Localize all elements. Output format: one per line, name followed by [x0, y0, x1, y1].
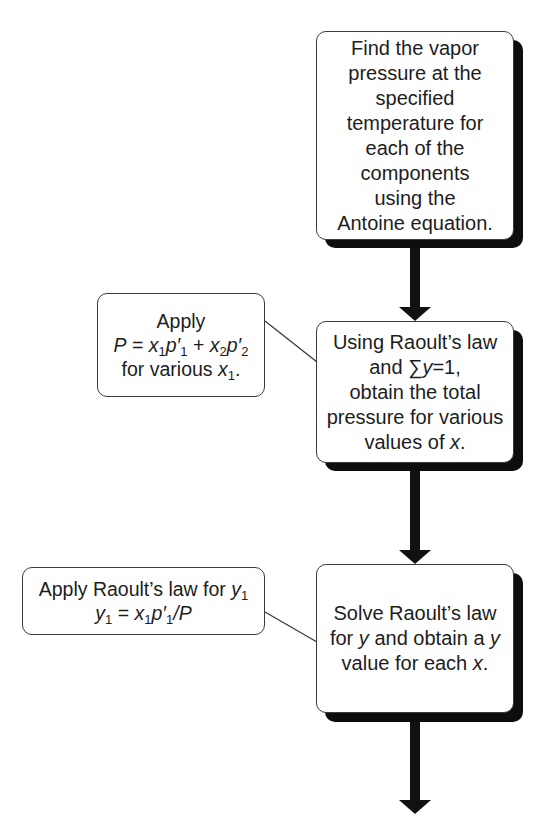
text-fragment: . — [460, 431, 466, 453]
text-fragment: value for each — [342, 652, 473, 674]
arrow-step3-to-next — [399, 713, 431, 814]
variable-x: x — [473, 652, 483, 674]
step2-line: values of x. — [327, 430, 504, 455]
arrow-step2-to-step3 — [399, 463, 431, 564]
step3-line: Solve Raoult’s law — [330, 601, 500, 626]
variable-p-prime: p′ — [166, 334, 181, 356]
arrow-step1-to-step2 — [399, 240, 431, 321]
callout1-equation: P = x1p′1 + x2p′2 — [114, 333, 249, 357]
step1-line: using the — [337, 186, 493, 211]
callout2-equation: y1 = x1p′1/P — [39, 601, 249, 625]
variable-y: y — [359, 627, 369, 649]
variable-x: x — [218, 358, 228, 380]
callout2-connector-line — [265, 612, 317, 642]
callout1-connector-line — [265, 321, 317, 362]
equals-sign: = — [112, 602, 134, 624]
variable-P: P — [114, 334, 127, 356]
text-fragment: and ∑ — [369, 356, 422, 378]
step3-box: Solve Raoult’s law for y and obtain a y … — [316, 564, 514, 713]
variable-x: x — [135, 602, 145, 624]
step1-line: temperature for — [337, 111, 493, 136]
step2-line: and ∑y=1, — [327, 355, 504, 380]
step1-line: each of the — [337, 136, 493, 161]
callout1-title: Apply — [114, 309, 249, 333]
variable-x: x — [450, 431, 460, 453]
text-fragment: Apply Raoult’s law for — [39, 578, 232, 600]
callout2-text: Apply Raoult’s law for y1 y1 = x1p′1/P — [33, 577, 255, 625]
text-fragment: for — [330, 627, 359, 649]
step1-line: Find the vapor — [337, 36, 493, 61]
variable-y: y — [490, 627, 500, 649]
step3-line: value for each x. — [330, 651, 500, 676]
subscript: 1 — [228, 368, 235, 383]
variable-p-prime: p′ — [152, 602, 167, 624]
text-fragment: . — [483, 652, 489, 674]
step1-line: pressure at the — [337, 61, 493, 86]
variable-P: P — [179, 602, 192, 624]
variable-y: y — [422, 356, 432, 378]
step2-line: Using Raoult’s law — [327, 330, 504, 355]
equals-sign: = — [127, 334, 149, 356]
step1-box: Find the vapor pressure at the specified… — [316, 31, 514, 240]
variable-y: y — [231, 578, 241, 600]
flowchart-canvas: Find the vapor pressure at the specified… — [0, 0, 549, 834]
step1-line: specified — [337, 86, 493, 111]
variable-y: y — [95, 602, 105, 624]
text-fragment: values of — [364, 431, 450, 453]
text-fragment: and obtain a — [369, 627, 490, 649]
plus-sign: + — [188, 334, 210, 356]
subscript: 1 — [144, 612, 151, 627]
text-fragment: . — [235, 358, 240, 380]
subscript: 1 — [241, 588, 248, 603]
callout1-box: Apply P = x1p′1 + x2p′2 for various x1. — [97, 293, 265, 397]
text-fragment: =1, — [432, 356, 460, 378]
step1-line: Antoine equation. — [337, 211, 493, 236]
step1-line: components — [337, 161, 493, 186]
step1-text: Find the vapor pressure at the specified… — [331, 36, 499, 236]
step3-text: Solve Raoult’s law for y and obtain a y … — [324, 601, 506, 676]
step2-line: pressure for various — [327, 405, 504, 430]
callout2-title: Apply Raoult’s law for y1 — [39, 577, 249, 601]
subscript: 2 — [241, 344, 248, 359]
step2-text: Using Raoult’s law and ∑y=1, obtain the … — [321, 330, 510, 455]
variable-x: x — [149, 334, 159, 356]
step2-line: obtain the total — [327, 380, 504, 405]
text-fragment: for various — [122, 358, 218, 380]
step3-line: for y and obtain a y — [330, 626, 500, 651]
callout2-box: Apply Raoult’s law for y1 y1 = x1p′1/P — [22, 567, 265, 635]
callout1-footer: for various x1. — [114, 357, 249, 381]
step2-box: Using Raoult’s law and ∑y=1, obtain the … — [316, 321, 514, 463]
callout1-text: Apply P = x1p′1 + x2p′2 for various x1. — [108, 309, 255, 381]
variable-p-prime: p′ — [227, 334, 242, 356]
